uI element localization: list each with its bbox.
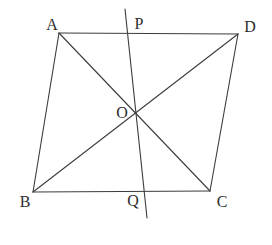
side-AD (59, 33, 238, 34)
side-BC (33, 191, 210, 192)
parallelogram-diagram: APDOBQC (0, 0, 272, 245)
line-PQ (125, 9, 147, 218)
point-label-D: D (244, 18, 256, 35)
side-DC (210, 34, 238, 191)
point-label-C: C (217, 193, 228, 210)
geometry-figure: APDOBQC (0, 0, 272, 245)
point-label-B: B (20, 193, 31, 210)
point-label-P: P (135, 15, 144, 32)
side-AB (33, 33, 59, 192)
point-label-Q: Q (127, 192, 139, 209)
diagonal-AC (59, 33, 210, 191)
point-label-O: O (116, 104, 128, 121)
point-label-A: A (46, 16, 58, 33)
